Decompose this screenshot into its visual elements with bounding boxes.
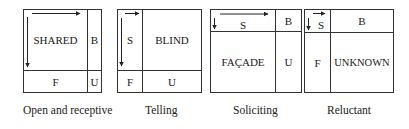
arrows-layer xyxy=(0,0,409,129)
